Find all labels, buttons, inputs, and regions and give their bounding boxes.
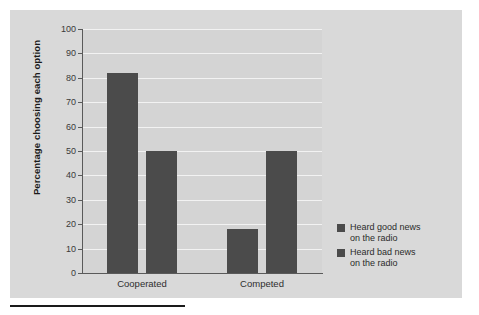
y-axis-tick-label: 0: [42, 269, 76, 278]
legend-entry: Heard good news on the radio: [337, 222, 457, 244]
y-axis-tick-mark: [78, 151, 82, 152]
y-axis-tick-label: 50: [42, 147, 76, 156]
bar: [227, 229, 258, 273]
chart-legend: Heard good news on the radioHeard bad ne…: [337, 222, 457, 272]
y-axis-tick-label: 100: [42, 25, 76, 34]
gridline: [82, 29, 322, 30]
y-axis-tick-label: 90: [42, 49, 76, 58]
bottom-rule: [10, 305, 185, 307]
y-axis-tick-mark: [78, 249, 82, 250]
y-axis-tick-label: 30: [42, 196, 76, 205]
legend-swatch-icon: [337, 224, 345, 232]
legend-swatch-icon: [337, 249, 345, 257]
bar: [266, 151, 297, 273]
y-axis-tick-label: 10: [42, 245, 76, 254]
chart-figure-panel: 0102030405060708090100 Percentage choosi…: [10, 10, 462, 298]
y-axis-tick-mark: [78, 175, 82, 176]
y-axis-tick-label: 80: [42, 74, 76, 83]
y-axis-tick-mark: [78, 200, 82, 201]
bar: [146, 151, 177, 273]
y-axis-tick-mark: [78, 127, 82, 128]
legend-label: Heard bad news on the radio: [350, 247, 416, 269]
legend-entry: Heard bad news on the radio: [337, 247, 457, 269]
bar: [107, 73, 138, 273]
y-axis-tick-label: 70: [42, 98, 76, 107]
y-axis-tick-label: 20: [42, 220, 76, 229]
y-axis-title: Percentage choosing each option: [31, 28, 42, 208]
x-axis-category-label-cooperated: Cooperated: [97, 278, 187, 289]
y-axis-tick-mark: [78, 102, 82, 103]
gridline: [82, 53, 322, 54]
y-axis-tick-label: 40: [42, 171, 76, 180]
y-axis-tick-label: 60: [42, 123, 76, 132]
x-axis-line: [82, 273, 323, 274]
y-axis-tick-mark: [78, 53, 82, 54]
legend-label: Heard good news on the radio: [350, 222, 421, 244]
y-axis-tick-mark: [78, 273, 82, 274]
y-axis-line: [82, 29, 83, 274]
plot-area: [82, 29, 322, 273]
x-axis-category-label-competed: Competed: [217, 278, 307, 289]
y-axis-tick-mark: [78, 78, 82, 79]
y-axis-tick-mark: [78, 29, 82, 30]
y-axis-tick-mark: [78, 224, 82, 225]
